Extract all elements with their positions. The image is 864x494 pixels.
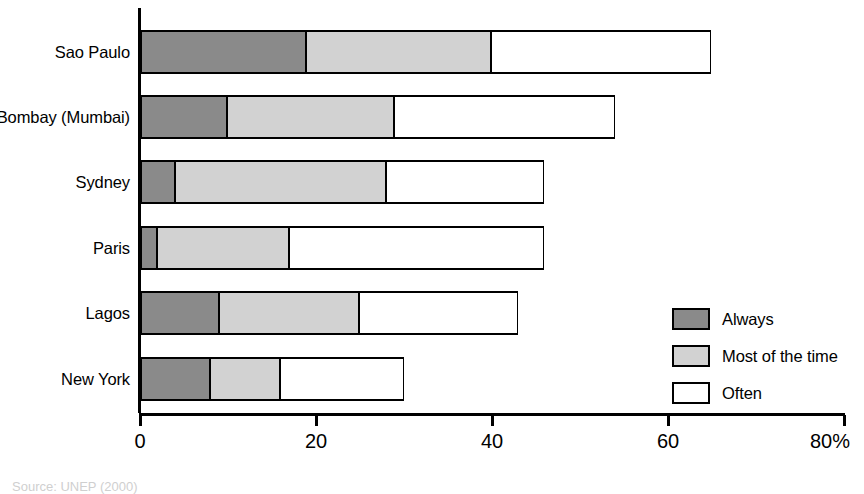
category-label-lagos: Lagos	[86, 291, 130, 335]
legend-swatch-always-icon	[672, 308, 710, 330]
bar-segment-often	[490, 30, 711, 74]
bar-segment-most-of-the-time	[174, 160, 386, 204]
bar-segment-often	[393, 95, 614, 139]
bar-row	[140, 95, 615, 139]
bar-segment-always	[140, 226, 158, 270]
category-label-paris: Paris	[93, 226, 130, 270]
bar-segment-most-of-the-time	[305, 30, 491, 74]
x-tick-label-40: 40	[481, 429, 503, 453]
bar-segment-always	[140, 160, 175, 204]
category-label-sao-paulo: Sao Paulo	[55, 30, 130, 74]
bar-segment-often	[358, 291, 518, 335]
bar-segment-always	[140, 357, 210, 401]
bar-row	[140, 30, 711, 74]
legend-item-most-of-the-time: Most of the time	[672, 340, 838, 372]
legend-label-always: Always	[722, 310, 774, 329]
legend: Always Most of the time Often	[672, 303, 838, 414]
category-label-sydney: Sydney	[76, 160, 130, 204]
x-tick-mark-60	[667, 415, 670, 426]
legend-swatch-often-icon	[672, 382, 710, 404]
category-label-new-york: New York	[61, 357, 130, 401]
bar-row	[140, 226, 544, 270]
bar-row	[140, 291, 518, 335]
x-tick-mark-80	[843, 415, 846, 426]
legend-label-most-of-the-time: Most of the time	[722, 347, 838, 366]
bar-segment-most-of-the-time	[226, 95, 394, 139]
bar-segment-often	[385, 160, 545, 204]
bar-row	[140, 160, 544, 204]
legend-item-often: Often	[672, 377, 838, 409]
bar-segment-always	[140, 30, 307, 74]
bar-segment-always	[140, 291, 219, 335]
x-tick-mark-20	[315, 415, 318, 426]
x-tick-label-0: 0	[134, 429, 145, 453]
bar-segment-always	[140, 95, 228, 139]
x-tick-label-20: 20	[305, 429, 327, 453]
source-note: Source: UNEP (2000)	[12, 479, 138, 494]
bar-segment-often	[279, 357, 404, 401]
legend-item-always: Always	[672, 303, 838, 335]
x-tick-label-80: 80%	[810, 429, 850, 453]
bar-row	[140, 357, 404, 401]
legend-label-often: Often	[722, 384, 762, 403]
bar-segment-most-of-the-time	[218, 291, 360, 335]
category-label-bombay: Bombay (Mumbai)	[0, 95, 130, 139]
bar-segment-most-of-the-time	[156, 226, 289, 270]
x-tick-mark-0	[139, 415, 142, 426]
x-tick-label-60: 60	[657, 429, 679, 453]
x-tick-mark-40	[491, 415, 494, 426]
bar-segment-most-of-the-time	[209, 357, 281, 401]
bar-segment-often	[288, 226, 544, 270]
legend-swatch-most-of-the-time-icon	[672, 345, 710, 367]
